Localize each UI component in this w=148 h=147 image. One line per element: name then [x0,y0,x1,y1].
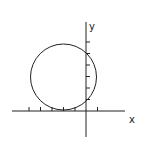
x-axis-label: x [129,114,135,125]
y-axis-ticks [86,42,90,100]
y-axis-label: y [89,21,95,32]
coordinate-diagram: x y [0,0,148,147]
